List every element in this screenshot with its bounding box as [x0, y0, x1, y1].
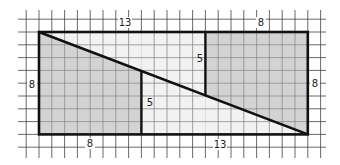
label-bottom-left: 8: [87, 138, 93, 149]
label-top-right: 8: [258, 17, 264, 28]
diagram-canvas: 13 8 8 8 8 13 5 5: [0, 0, 340, 165]
label-bottom-right: 13: [214, 139, 227, 150]
label-right: 8: [312, 78, 318, 89]
label-left: 8: [29, 79, 35, 90]
label-inner-right: 5: [197, 53, 203, 64]
label-inner-left: 5: [147, 97, 153, 108]
label-top-left: 13: [119, 17, 132, 28]
